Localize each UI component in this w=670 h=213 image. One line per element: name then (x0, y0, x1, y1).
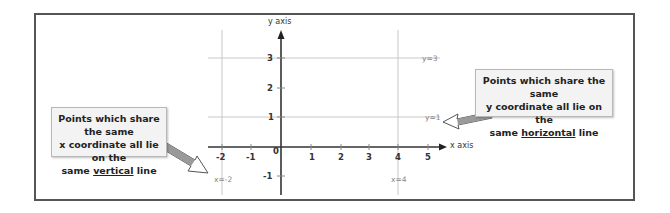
y-axis-label: y axis (268, 17, 291, 26)
line-label-xneg2: x=-2 (214, 175, 232, 184)
x-tick-label: 0 (273, 146, 279, 156)
callout-text: Points which share the same (480, 74, 608, 100)
x-tick-label: 2 (338, 152, 344, 162)
callout-vertical-lines: Points which share the same x coordinate… (51, 107, 167, 157)
x-tick-label: 1 (309, 152, 315, 162)
callout-text: same vertical line (56, 164, 162, 177)
callout-horizontal-lines: Points which share the same y coordinate… (475, 69, 613, 117)
line-label-y1: y=1 (425, 113, 441, 122)
callout-emphasis: horizontal (521, 127, 575, 138)
y-tick-label: -1 (263, 171, 272, 181)
x-axis-label: x axis (450, 141, 473, 150)
callout-text: same horizontal line (480, 126, 608, 139)
callout-text: line (575, 127, 598, 138)
y-tick-label: 1 (268, 112, 274, 122)
callout-text: same (61, 165, 93, 176)
x-tick-label: 5 (425, 152, 431, 162)
line-label-y3: y=3 (422, 54, 438, 63)
grid-lines (208, 30, 440, 195)
x-tick-label: -1 (246, 152, 255, 162)
callout-text: line (134, 165, 157, 176)
x-axis (208, 144, 447, 151)
y-axis-arrow-icon (278, 30, 285, 39)
y-axis (277, 30, 285, 195)
callout-text: x coordinate all lie on the (56, 138, 162, 164)
callout-text: y coordinate all lie on the (480, 100, 608, 126)
callout-emphasis: vertical (93, 165, 133, 176)
x-tick-label: -2 (216, 152, 225, 162)
x-tick-label: 4 (395, 152, 401, 162)
y-tick-label: 3 (267, 53, 273, 63)
arrow-left-callout-icon (161, 142, 208, 173)
callout-text: same (489, 127, 521, 138)
x-axis-arrow-icon (439, 144, 447, 151)
y-tick-label: 2 (267, 83, 273, 93)
line-label-x4: x=4 (391, 175, 407, 184)
callout-text: Points which share the same (56, 112, 162, 138)
x-tick-label: 3 (366, 152, 372, 162)
